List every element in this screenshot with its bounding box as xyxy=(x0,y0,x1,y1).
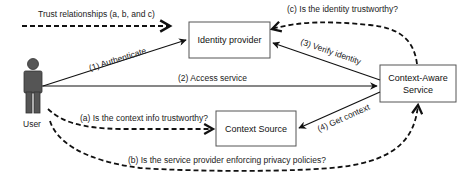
trust-c-label: (c) Is the identity trustworthy? xyxy=(287,4,398,14)
verify-identity-label: (3) Verify identity xyxy=(299,36,363,66)
user-label: User xyxy=(23,119,41,129)
edge-authenticate: (1) Authenticate xyxy=(43,40,186,86)
edge-get-context: (4) Get context xyxy=(299,92,380,134)
authenticate-label: (1) Authenticate xyxy=(88,45,148,73)
edge-trust-a: (a) Is the context info trustworthy? xyxy=(48,109,213,129)
context-aware-service-node: Context-Aware Service xyxy=(380,65,456,102)
user-left-leg-icon xyxy=(26,92,32,113)
identity-provider-label: Identity provider xyxy=(197,35,261,45)
context-aware-service-label-line2: Service xyxy=(403,85,433,95)
user-body-icon xyxy=(24,71,42,93)
get-context-label: (4) Get context xyxy=(316,102,372,134)
edge-verify-identity: (3) Verify identity xyxy=(273,36,380,80)
access-service-label: (2) Access service xyxy=(178,73,247,83)
context-aware-service-label-line1: Context-Aware xyxy=(388,73,447,83)
user-right-leg-icon xyxy=(34,92,40,113)
trust-diagram: Trust relationships (a, b, and c) User I… xyxy=(0,0,476,179)
user-actor: User xyxy=(23,59,42,130)
edge-access-service: (2) Access service xyxy=(42,73,377,86)
legend: Trust relationships (a, b, and c) xyxy=(22,9,170,26)
context-source-label: Context Source xyxy=(225,124,287,134)
context-source-node: Context Source xyxy=(216,111,296,146)
legend-label: Trust relationships (a, b, and c) xyxy=(38,9,155,19)
user-head-icon xyxy=(28,59,39,70)
identity-provider-node: Identity provider xyxy=(189,22,270,58)
trust-a-label: (a) Is the context info trustworthy? xyxy=(80,113,208,123)
trust-b-label: (b) Is the service provider enforcing pr… xyxy=(128,155,326,165)
